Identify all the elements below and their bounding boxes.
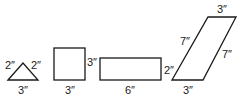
square-right-label: 3″ — [87, 56, 97, 68]
triangle-right-label: 2″ — [31, 59, 41, 71]
parallelogram-bottom-label: 3″ — [183, 84, 193, 96]
rectangle-right-label: 2″ — [164, 64, 174, 76]
parallelogram-top-label: 3″ — [217, 3, 227, 15]
triangle: 2″ 2″ 3″ — [5, 59, 41, 96]
rectangle: 2″ 6″ — [100, 58, 174, 96]
rectangle-outline — [100, 58, 161, 80]
shapes-diagram: 2″ 2″ 3″ 3″ 3″ 2″ 6″ 3″ 7″ 7″ 3″ — [0, 0, 240, 102]
square-bottom-label: 3″ — [65, 84, 75, 96]
rectangle-bottom-label: 6″ — [125, 84, 135, 96]
square-outline — [54, 48, 85, 80]
triangle-bottom-label: 3″ — [18, 84, 28, 96]
parallelogram-right-label: 7″ — [222, 48, 232, 60]
parallelogram-left-label: 7″ — [180, 35, 190, 47]
square: 3″ 3″ — [54, 48, 97, 96]
parallelogram: 3″ 7″ 7″ 3″ — [172, 3, 236, 96]
triangle-left-label: 2″ — [5, 59, 15, 71]
